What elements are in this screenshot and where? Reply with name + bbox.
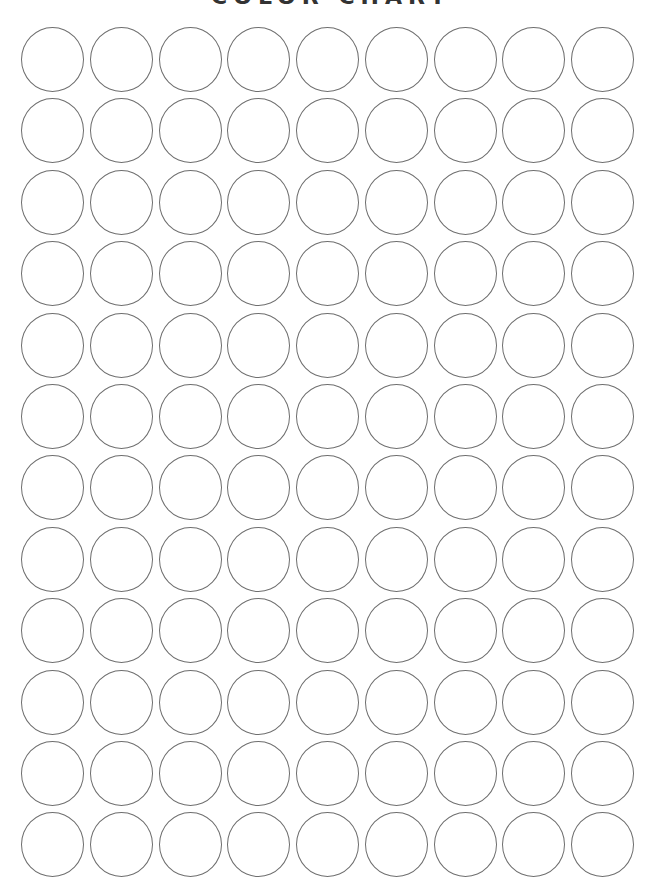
color-swatch-circle[interactable] <box>90 455 153 520</box>
color-swatch-circle[interactable] <box>21 527 84 592</box>
color-swatch-circle[interactable] <box>434 384 497 449</box>
color-swatch-circle[interactable] <box>227 384 290 449</box>
color-swatch-circle[interactable] <box>502 527 565 592</box>
color-swatch-circle[interactable] <box>21 313 84 378</box>
color-swatch-circle[interactable] <box>90 527 153 592</box>
color-swatch-circle[interactable] <box>227 241 290 306</box>
color-swatch-circle[interactable] <box>571 27 634 92</box>
color-swatch-circle[interactable] <box>159 241 222 306</box>
color-swatch-circle[interactable] <box>365 598 428 663</box>
color-swatch-circle[interactable] <box>365 812 428 877</box>
color-swatch-circle[interactable] <box>227 527 290 592</box>
color-swatch-circle[interactable] <box>434 598 497 663</box>
color-swatch-circle[interactable] <box>502 313 565 378</box>
color-swatch-circle[interactable] <box>502 98 565 163</box>
color-swatch-circle[interactable] <box>90 27 153 92</box>
color-swatch-circle[interactable] <box>365 313 428 378</box>
color-swatch-circle[interactable] <box>434 670 497 735</box>
color-swatch-circle[interactable] <box>21 670 84 735</box>
color-swatch-circle[interactable] <box>90 313 153 378</box>
color-swatch-circle[interactable] <box>365 455 428 520</box>
color-swatch-circle[interactable] <box>434 241 497 306</box>
color-swatch-circle[interactable] <box>571 812 634 877</box>
color-swatch-circle[interactable] <box>502 241 565 306</box>
color-swatch-circle[interactable] <box>571 455 634 520</box>
color-swatch-circle[interactable] <box>159 170 222 235</box>
color-swatch-circle[interactable] <box>571 670 634 735</box>
color-swatch-circle[interactable] <box>502 812 565 877</box>
color-swatch-circle[interactable] <box>159 598 222 663</box>
color-swatch-circle[interactable] <box>21 741 84 806</box>
color-swatch-circle[interactable] <box>365 527 428 592</box>
color-swatch-circle[interactable] <box>502 455 565 520</box>
color-swatch-circle[interactable] <box>365 98 428 163</box>
color-swatch-circle[interactable] <box>159 527 222 592</box>
color-swatch-circle[interactable] <box>296 27 359 92</box>
color-swatch-circle[interactable] <box>21 170 84 235</box>
color-swatch-circle[interactable] <box>90 812 153 877</box>
color-swatch-circle[interactable] <box>296 98 359 163</box>
color-swatch-circle[interactable] <box>21 241 84 306</box>
color-swatch-circle[interactable] <box>296 527 359 592</box>
color-swatch-circle[interactable] <box>296 598 359 663</box>
color-swatch-circle[interactable] <box>365 27 428 92</box>
color-swatch-circle[interactable] <box>365 741 428 806</box>
color-swatch-circle[interactable] <box>571 527 634 592</box>
color-swatch-circle[interactable] <box>296 241 359 306</box>
color-swatch-circle[interactable] <box>571 384 634 449</box>
color-swatch-circle[interactable] <box>365 241 428 306</box>
color-swatch-circle[interactable] <box>502 170 565 235</box>
color-swatch-circle[interactable] <box>571 170 634 235</box>
color-swatch-circle[interactable] <box>296 384 359 449</box>
color-swatch-circle[interactable] <box>159 27 222 92</box>
color-swatch-circle[interactable] <box>90 741 153 806</box>
color-swatch-circle[interactable] <box>365 670 428 735</box>
color-swatch-circle[interactable] <box>365 384 428 449</box>
color-swatch-circle[interactable] <box>90 98 153 163</box>
color-swatch-circle[interactable] <box>434 812 497 877</box>
color-swatch-circle[interactable] <box>502 598 565 663</box>
color-swatch-circle[interactable] <box>227 27 290 92</box>
color-swatch-circle[interactable] <box>296 812 359 877</box>
color-swatch-circle[interactable] <box>434 27 497 92</box>
color-swatch-circle[interactable] <box>502 27 565 92</box>
color-swatch-circle[interactable] <box>159 670 222 735</box>
color-swatch-circle[interactable] <box>227 812 290 877</box>
color-swatch-circle[interactable] <box>434 527 497 592</box>
color-swatch-circle[interactable] <box>502 670 565 735</box>
color-swatch-circle[interactable] <box>227 741 290 806</box>
color-swatch-circle[interactable] <box>571 741 634 806</box>
color-swatch-circle[interactable] <box>227 170 290 235</box>
color-swatch-circle[interactable] <box>227 670 290 735</box>
color-swatch-circle[interactable] <box>159 384 222 449</box>
color-swatch-circle[interactable] <box>21 598 84 663</box>
color-swatch-circle[interactable] <box>227 98 290 163</box>
color-swatch-circle[interactable] <box>571 313 634 378</box>
color-swatch-circle[interactable] <box>90 241 153 306</box>
color-swatch-circle[interactable] <box>434 313 497 378</box>
color-swatch-circle[interactable] <box>21 384 84 449</box>
color-swatch-circle[interactable] <box>21 455 84 520</box>
color-swatch-circle[interactable] <box>21 98 84 163</box>
color-swatch-circle[interactable] <box>502 384 565 449</box>
color-swatch-circle[interactable] <box>90 598 153 663</box>
color-swatch-circle[interactable] <box>296 670 359 735</box>
color-swatch-circle[interactable] <box>434 455 497 520</box>
color-swatch-circle[interactable] <box>571 98 634 163</box>
color-swatch-circle[interactable] <box>502 741 565 806</box>
color-swatch-circle[interactable] <box>90 670 153 735</box>
color-swatch-circle[interactable] <box>159 812 222 877</box>
color-swatch-circle[interactable] <box>434 170 497 235</box>
color-swatch-circle[interactable] <box>21 812 84 877</box>
color-swatch-circle[interactable] <box>227 455 290 520</box>
color-swatch-circle[interactable] <box>90 170 153 235</box>
color-swatch-circle[interactable] <box>571 241 634 306</box>
color-swatch-circle[interactable] <box>296 313 359 378</box>
color-swatch-circle[interactable] <box>227 598 290 663</box>
color-swatch-circle[interactable] <box>296 170 359 235</box>
color-swatch-circle[interactable] <box>365 170 428 235</box>
color-swatch-circle[interactable] <box>296 455 359 520</box>
color-swatch-circle[interactable] <box>159 455 222 520</box>
color-swatch-circle[interactable] <box>227 313 290 378</box>
color-swatch-circle[interactable] <box>434 98 497 163</box>
